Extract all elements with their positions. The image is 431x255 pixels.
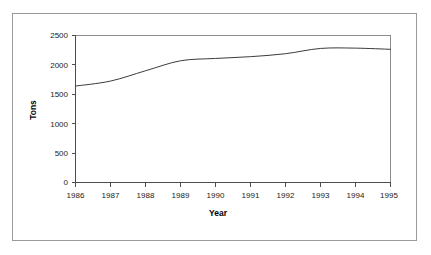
line-chart-plot: 0 500 1000 1500 2000 2500 Tons bbox=[0, 0, 431, 255]
x-axis-ticks bbox=[76, 183, 391, 187]
x-axis-tick-labels: 1986 1987 1988 1989 1990 1991 1992 1993 … bbox=[67, 191, 399, 200]
x-tick-label-1989: 1989 bbox=[172, 191, 190, 200]
y-tick-label-2000: 2000 bbox=[50, 61, 68, 70]
x-tick-label-1990: 1990 bbox=[207, 191, 225, 200]
y-tick-label-0: 0 bbox=[64, 178, 69, 187]
y-tick-label-2500: 2500 bbox=[50, 31, 68, 40]
y-axis-title: Tons bbox=[28, 100, 38, 120]
y-tick-label-500: 500 bbox=[55, 149, 69, 158]
y-axis: 0 500 1000 1500 2000 2500 Tons bbox=[28, 31, 76, 187]
x-tick-label-1991: 1991 bbox=[242, 191, 260, 200]
x-axis: 1986 1987 1988 1989 1990 1991 1992 1993 … bbox=[67, 183, 399, 219]
y-tick-label-1500: 1500 bbox=[50, 90, 68, 99]
x-tick-label-1987: 1987 bbox=[102, 191, 120, 200]
x-axis-title: Year bbox=[209, 208, 228, 218]
y-axis-ticks bbox=[72, 36, 76, 183]
series-line-tons bbox=[76, 48, 391, 86]
x-tick-label-1995: 1995 bbox=[380, 191, 398, 200]
x-tick-label-1994: 1994 bbox=[347, 191, 365, 200]
x-tick-label-1988: 1988 bbox=[137, 191, 155, 200]
y-axis-tick-labels: 0 500 1000 1500 2000 2500 bbox=[50, 31, 68, 187]
x-tick-label-1986: 1986 bbox=[67, 191, 85, 200]
y-tick-label-1000: 1000 bbox=[50, 120, 68, 129]
x-tick-label-1992: 1992 bbox=[277, 191, 295, 200]
x-tick-label-1993: 1993 bbox=[312, 191, 330, 200]
chart-figure: 0 500 1000 1500 2000 2500 Tons bbox=[0, 0, 431, 255]
